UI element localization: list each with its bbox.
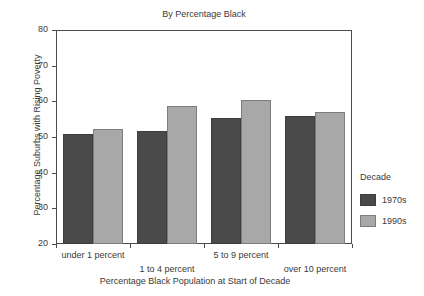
bar (93, 129, 123, 244)
bar (63, 134, 93, 244)
y-tick-label: 70 (18, 61, 48, 70)
legend-label: 1970s (382, 195, 407, 205)
chart-title: By Percentage Black (56, 9, 352, 19)
legend-swatch (360, 194, 376, 206)
bars-layer (56, 30, 352, 244)
legend-title: Decade (360, 172, 424, 182)
y-tick-label: 30 (18, 203, 48, 212)
x-tick-mark (278, 244, 279, 248)
bar-chart: By Percentage Black Percentage Suburbs w… (0, 0, 424, 296)
y-tick-label: 40 (18, 168, 48, 177)
bar (241, 100, 271, 244)
x-category-label: 1 to 4 percent (139, 264, 194, 274)
y-tick-label: 60 (18, 96, 48, 105)
x-tick-mark (130, 244, 131, 248)
x-tick-mark (352, 244, 353, 248)
y-tick-label: 20 (18, 239, 48, 248)
x-tick-mark (56, 244, 57, 248)
x-category-label: under 1 percent (61, 250, 124, 260)
legend-item: 1990s (360, 215, 424, 227)
y-tick-label: 50 (18, 132, 48, 141)
legend-swatch (360, 215, 376, 227)
bar (137, 131, 167, 244)
x-category-label: over 10 percent (284, 264, 347, 274)
x-tick-mark (204, 244, 205, 248)
bar (285, 116, 315, 244)
bar (211, 118, 241, 244)
legend-label: 1990s (382, 216, 407, 226)
x-axis-title: Percentage Black Population at Start of … (30, 276, 360, 286)
y-tick-label: 80 (18, 25, 48, 34)
legend-item: 1970s (360, 194, 424, 206)
bar (167, 106, 197, 244)
bar (315, 112, 345, 244)
legend: Decade 1970s1990s (360, 172, 424, 236)
x-category-label: 5 to 9 percent (213, 250, 268, 260)
